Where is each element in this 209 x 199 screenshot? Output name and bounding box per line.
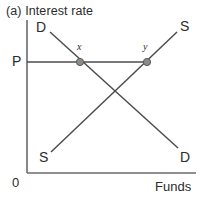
- point-y-label: y: [143, 42, 147, 52]
- plot-area: [0, 0, 209, 199]
- supply-curve-label-top: S: [180, 19, 189, 33]
- demand-curve-label-top: D: [36, 20, 46, 34]
- supply-curve-label-bottom: S: [39, 150, 48, 164]
- x-axis-title: Funds: [155, 180, 191, 193]
- point-y-marker: [143, 58, 150, 65]
- demand-curve-label-bottom: D: [180, 150, 190, 164]
- y-axis-tick-label-price: P: [12, 54, 21, 68]
- panel-title: (a) Interest rate: [6, 5, 93, 18]
- point-x-label: x: [77, 42, 81, 52]
- origin-label: 0: [12, 176, 19, 189]
- interest-rate-funds-figure: (a) Interest rate D S S D P 0 Funds x y: [0, 0, 209, 199]
- point-x-marker: [76, 58, 83, 65]
